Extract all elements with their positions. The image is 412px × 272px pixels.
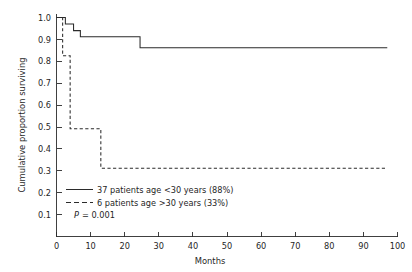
legend-label-older: 6 patients age >30 years (33%) (97, 198, 228, 208)
legend-label-young: 37 patients age <30 years (88%) (97, 185, 233, 195)
x-tick-label: 100 (390, 241, 406, 251)
y-tick-label: 0.7 (38, 78, 51, 88)
y-tick-label: 0.6 (38, 100, 51, 110)
survival-chart-figure: 1.0 0.9 0.8 0.7 0.6 0.5 0.4 0.3 0.2 0.1 … (0, 0, 412, 272)
x-axis-ticks: 0 10 20 30 40 50 60 70 80 90 100 (54, 232, 405, 252)
legend: 37 patients age <30 years (88%) 6 patien… (66, 185, 233, 221)
chart-canvas: 1.0 0.9 0.8 0.7 0.6 0.5 0.4 0.3 0.2 0.1 … (0, 0, 412, 272)
p-value-symbol: P (74, 210, 79, 220)
x-tick-label: 20 (119, 241, 129, 251)
x-tick-label: 30 (154, 241, 164, 251)
y-axis-ticks: 1.0 0.9 0.8 0.7 0.6 0.5 0.4 0.3 0.2 0.1 (38, 13, 62, 220)
y-tick-label: 0.4 (38, 144, 51, 154)
x-tick-label: 80 (324, 241, 334, 251)
x-tick-label: 50 (222, 241, 232, 251)
p-value-annotation: P= 0.001 (74, 210, 115, 220)
x-tick-label: 0 (54, 241, 59, 251)
x-tick-label: 90 (358, 241, 368, 251)
survival-curve-older (57, 18, 388, 169)
x-tick-label: 70 (290, 241, 300, 251)
y-tick-label: 0.1 (38, 210, 51, 220)
y-tick-label: 0.9 (38, 35, 51, 45)
x-tick-label: 60 (256, 241, 266, 251)
y-tick-label: 0.2 (38, 188, 51, 198)
y-tick-label: 0.5 (38, 122, 51, 132)
p-value-text: = 0.001 (82, 210, 115, 220)
x-tick-label: 10 (85, 241, 95, 251)
x-tick-label: 40 (188, 241, 198, 251)
y-tick-label: 0.8 (38, 56, 51, 66)
survival-curve-young (57, 18, 388, 48)
x-axis-title: Months (195, 256, 226, 266)
y-tick-label: 1.0 (38, 13, 51, 23)
y-tick-label: 0.3 (38, 166, 51, 176)
y-axis-title: Cumulative proportion surviving (17, 57, 27, 192)
